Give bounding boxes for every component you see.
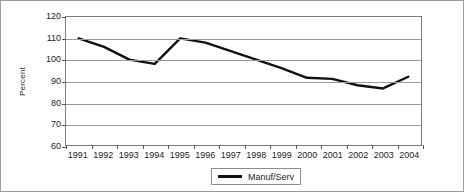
y-tick-mark [62, 82, 66, 83]
x-tick-label: 2003 [374, 150, 394, 160]
x-tick-mark [168, 145, 169, 149]
chart-legend: Manuf/Serv [211, 168, 301, 185]
y-tick-mark [62, 60, 66, 61]
series-line-manuf-serv [79, 38, 409, 88]
gridline [66, 39, 421, 40]
x-tick-label: 1992 [93, 150, 113, 160]
x-tick-mark [347, 145, 348, 149]
x-tick-label: 2004 [399, 150, 419, 160]
plot-area [65, 16, 422, 146]
x-tick-mark [398, 145, 399, 149]
x-tick-mark [321, 145, 322, 149]
x-tick-label: 1999 [272, 150, 292, 160]
y-tick-label: 100 [35, 55, 61, 64]
gridline [66, 104, 421, 105]
y-tick-label: 70 [35, 120, 61, 129]
x-tick-mark [372, 145, 373, 149]
x-tick-mark [270, 145, 271, 149]
x-tick-label: 1993 [119, 150, 139, 160]
x-tick-label: 1994 [144, 150, 164, 160]
x-tick-mark [423, 145, 424, 149]
y-axis-tick-labels: 60708090100110120 [33, 1, 61, 192]
y-tick-label: 90 [35, 77, 61, 86]
x-tick-mark [296, 145, 297, 149]
x-tick-label: 1997 [221, 150, 241, 160]
x-tick-label: 2001 [323, 150, 343, 160]
x-tick-mark [66, 145, 67, 149]
y-axis-title-text: Percent [18, 67, 27, 96]
x-tick-mark [92, 145, 93, 149]
y-tick-mark [62, 104, 66, 105]
x-tick-mark [245, 145, 246, 149]
line-chart: Percent 60708090100110120 19911992199319… [1, 1, 464, 192]
y-tick-mark [62, 125, 66, 126]
chart-figure: Percent 60708090100110120 19911992199319… [0, 0, 464, 192]
x-tick-label: 1996 [195, 150, 215, 160]
y-tick-mark [62, 39, 66, 40]
x-tick-label: 1995 [170, 150, 190, 160]
y-tick-label: 120 [35, 12, 61, 21]
y-tick-label: 60 [35, 142, 61, 151]
y-tick-mark [62, 17, 66, 18]
x-tick-mark [219, 145, 220, 149]
gridline [66, 125, 421, 126]
x-tick-label: 1991 [68, 150, 88, 160]
y-tick-label: 80 [35, 98, 61, 107]
x-tick-mark [194, 145, 195, 149]
gridline [66, 60, 421, 61]
x-tick-label: 2002 [348, 150, 368, 160]
x-tick-label: 2000 [297, 150, 317, 160]
gridline [66, 82, 421, 83]
legend-line-swatch [218, 175, 242, 178]
legend-label-manuf-serv: Manuf/Serv [248, 172, 294, 182]
x-tick-label: 1998 [246, 150, 266, 160]
x-tick-mark [143, 145, 144, 149]
y-tick-label: 110 [35, 33, 61, 42]
y-axis-title: Percent [15, 41, 29, 121]
x-tick-mark [117, 145, 118, 149]
